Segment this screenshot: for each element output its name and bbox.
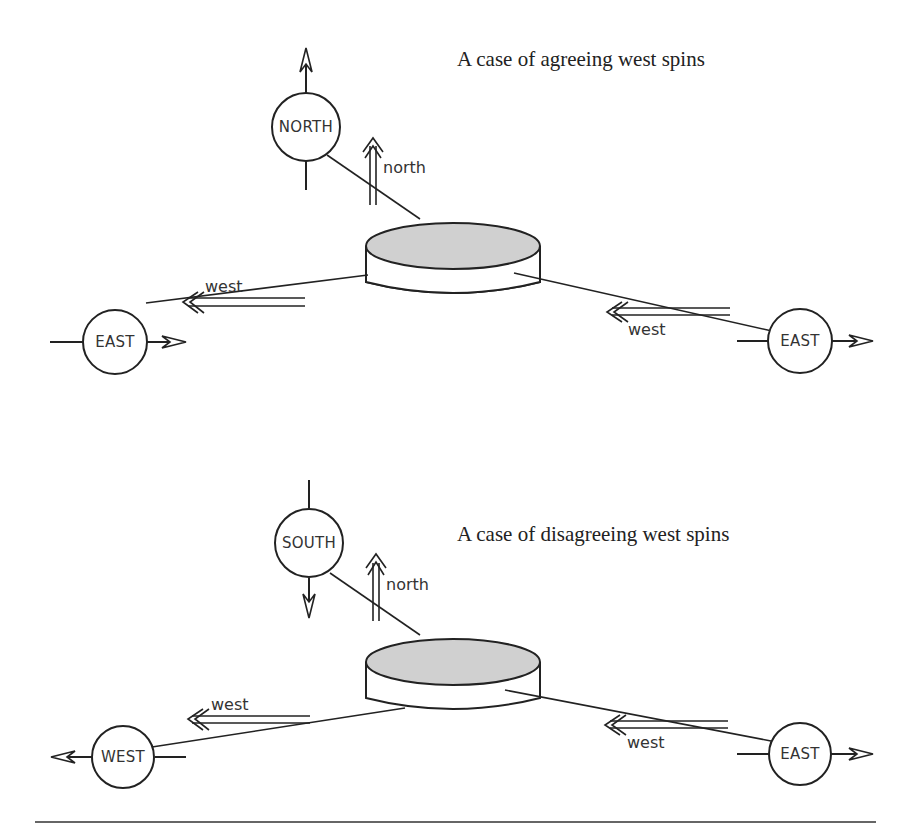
panel-disagreeing: A case of disagreeing west spins SOUTH n… xyxy=(51,480,873,788)
detector-label: EAST xyxy=(780,332,820,350)
right-west-spin-arrow: west xyxy=(605,715,728,752)
source-disk xyxy=(366,223,540,293)
detector-east-left: EAST xyxy=(50,310,186,374)
north-spin-arrow: north xyxy=(366,554,429,621)
spin-label-north: north xyxy=(386,575,429,594)
north-spin-arrow: north xyxy=(363,138,426,205)
detector-label: EAST xyxy=(780,745,820,763)
detector-south: SOUTH xyxy=(275,480,343,618)
detector-label: NORTH xyxy=(279,118,333,136)
left-west-spin-arrow: west xyxy=(183,277,305,313)
right-west-spin-arrow: west xyxy=(607,302,730,339)
path-to-left-detector xyxy=(152,708,405,747)
detector-west-left: WEST xyxy=(51,726,186,788)
detector-east-right: EAST xyxy=(737,309,873,373)
spin-diagram: A case of agreeing west spins NORTH nort xyxy=(0,0,917,836)
spin-label-west-left: west xyxy=(211,695,249,714)
spin-label-west-left: west xyxy=(205,277,243,296)
panel-title: A case of agreeing west spins xyxy=(457,47,705,71)
detector-label: WEST xyxy=(101,748,146,766)
detector-label: SOUTH xyxy=(282,534,336,552)
panel-title: A case of disagreeing west spins xyxy=(457,522,729,546)
panel-agreeing: A case of agreeing west spins NORTH nort xyxy=(50,47,873,374)
spin-label-west-right: west xyxy=(628,320,666,339)
detector-label: EAST xyxy=(95,333,135,351)
source-disk xyxy=(366,639,540,709)
spin-label-west-right: west xyxy=(627,733,665,752)
detector-east-right: EAST xyxy=(737,723,873,785)
detector-north: NORTH xyxy=(272,48,340,190)
spin-label-north: north xyxy=(383,158,426,177)
